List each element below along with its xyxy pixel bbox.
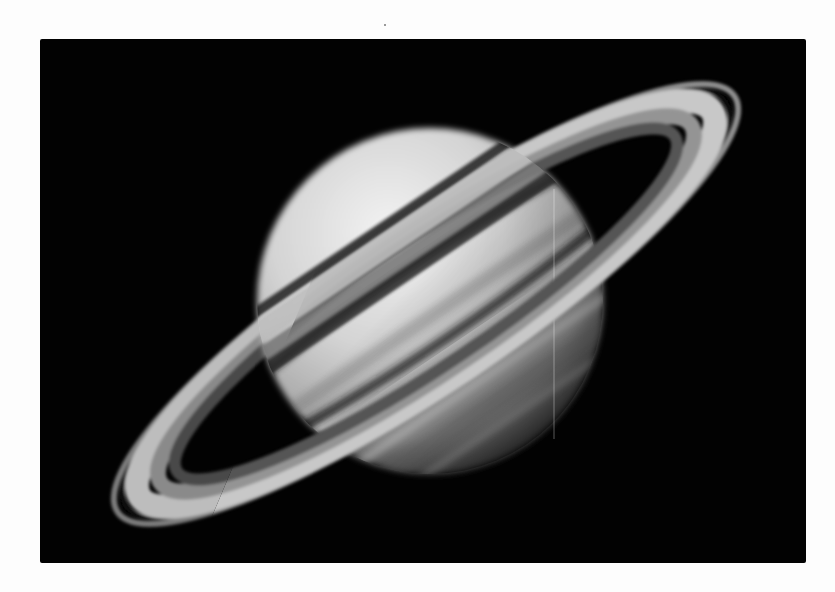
page (0, 0, 835, 592)
dust-speck (384, 24, 386, 26)
saturn-illustration (40, 39, 806, 563)
saturn-photo (40, 39, 806, 563)
